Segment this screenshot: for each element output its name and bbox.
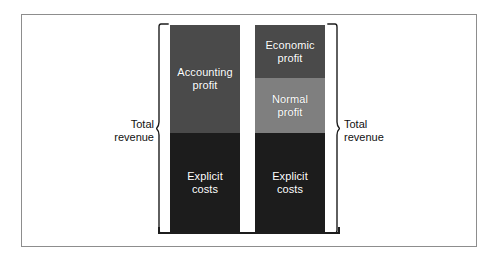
baseline-tick-right (338, 227, 340, 233)
segment-economic-profit: Economic profit (255, 25, 325, 78)
brace-right (327, 23, 340, 234)
segment-explicit-costs-left: Explicit costs (170, 133, 240, 232)
bar-accounting-view: Accounting profit Explicit costs (170, 25, 240, 232)
segment-normal-profit-label: Normal profit (272, 93, 308, 118)
segment-accounting-profit-label: Accounting profit (177, 66, 232, 91)
brace-left (156, 23, 169, 234)
figure-canvas: Accounting profit Explicit costs Economi… (0, 0, 498, 265)
segment-explicit-costs-right: Explicit costs (255, 133, 325, 232)
segment-normal-profit: Normal profit (255, 78, 325, 133)
segment-economic-profit-label: Economic profit (265, 39, 314, 64)
figure-frame (21, 14, 477, 247)
segment-explicit-costs-right-label: Explicit costs (272, 170, 308, 195)
bar-economic-view: Economic profit Normal profit Explicit c… (255, 25, 325, 232)
label-total-revenue-right: Total revenue (344, 118, 396, 144)
baseline-tick-left (158, 227, 160, 233)
baseline-axis (158, 232, 340, 234)
label-total-revenue-left: Total revenue (104, 118, 154, 144)
segment-accounting-profit: Accounting profit (170, 25, 240, 133)
segment-explicit-costs-left-label: Explicit costs (187, 170, 223, 195)
